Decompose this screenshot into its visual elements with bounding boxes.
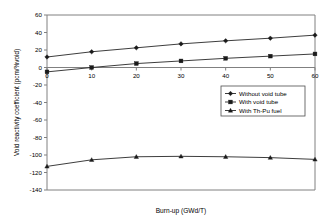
legend-item-label: With Th-Pu fuel xyxy=(239,107,282,114)
y-tick-label: 60 xyxy=(35,11,42,18)
x-tick-label: 10 xyxy=(88,72,95,79)
legend-item-label: With void tube xyxy=(239,98,279,105)
x-axis-title: Burn-up (GWd/T) xyxy=(156,207,207,215)
x-tick-label: 20 xyxy=(133,72,140,79)
y-axis-title: Void reactivity coefficient (pcm/%void) xyxy=(13,49,21,156)
data-point-marker xyxy=(223,39,228,44)
y-tick-label: -40 xyxy=(33,99,43,106)
x-tick-label: 40 xyxy=(222,72,229,79)
series-1 xyxy=(45,33,318,59)
chart-legend: Without void tubeWith void tubeWith Th-P… xyxy=(221,86,305,116)
y-tick-label: 20 xyxy=(35,46,42,53)
y-tick-label: -60 xyxy=(33,116,43,123)
data-point-marker xyxy=(89,49,94,54)
data-point-marker xyxy=(224,56,228,60)
y-tick-label: -140 xyxy=(30,186,43,193)
data-point-marker xyxy=(134,46,139,51)
y-tick-label: -100 xyxy=(30,151,43,158)
data-point-marker xyxy=(179,59,183,63)
y-tick-label: -80 xyxy=(33,134,43,141)
series-2 xyxy=(45,52,317,74)
data-point-marker xyxy=(179,42,184,47)
legend-item-label: Without void tube xyxy=(239,90,287,97)
x-tick-label: 30 xyxy=(178,72,185,79)
y-tick-label: -20 xyxy=(33,81,43,88)
data-point-marker xyxy=(45,70,49,74)
series-3 xyxy=(45,154,317,168)
data-point-marker xyxy=(229,100,233,104)
data-point-marker xyxy=(313,52,317,56)
chart-container: 6040200-20-40-60-80-100-120-140010203040… xyxy=(0,0,334,220)
data-point-marker xyxy=(90,66,94,70)
data-point-marker xyxy=(134,62,138,66)
data-point-marker xyxy=(268,36,273,41)
y-tick-label: -120 xyxy=(30,169,43,176)
x-tick-label: 60 xyxy=(312,72,319,79)
y-tick-label: 0 xyxy=(39,64,43,71)
y-tick-label: 40 xyxy=(35,29,42,36)
x-tick-label: 50 xyxy=(267,72,274,79)
data-point-marker xyxy=(313,33,318,38)
data-point-marker xyxy=(268,54,272,58)
data-point-marker xyxy=(45,55,50,60)
void-reactivity-line-chart: 6040200-20-40-60-80-100-120-140010203040… xyxy=(0,0,334,220)
